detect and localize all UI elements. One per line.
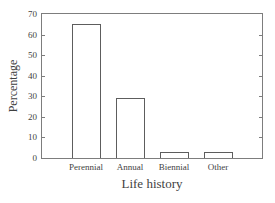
y-tick-mark xyxy=(259,96,262,97)
y-tick-mark xyxy=(42,76,45,77)
y-tick-mark xyxy=(42,55,45,56)
y-tick-mark xyxy=(42,96,45,97)
bar-chart-figure: Percentage 010203040506070 PerennialAnnu… xyxy=(0,0,275,203)
x-tick-label: Other xyxy=(208,162,229,172)
y-tick-label: 70 xyxy=(0,9,37,19)
x-tick-labels: PerennialAnnualBiennialOther xyxy=(42,162,262,174)
y-tick-label: 30 xyxy=(0,91,37,101)
x-tick-label: Perennial xyxy=(69,162,103,172)
y-tick-label: 50 xyxy=(0,50,37,60)
y-tick-label: 60 xyxy=(0,30,37,40)
y-tick-label: 40 xyxy=(0,71,37,81)
y-tick-mark xyxy=(42,137,45,138)
y-tick-mark xyxy=(42,35,45,36)
y-tick-label: 10 xyxy=(0,132,37,142)
bar-biennial xyxy=(160,152,189,158)
x-tick-label: Biennial xyxy=(159,162,190,172)
y-tick-mark xyxy=(259,137,262,138)
bar-other xyxy=(204,152,233,158)
y-tick-mark xyxy=(42,117,45,118)
y-tick-mark xyxy=(259,117,262,118)
y-tick-label: 20 xyxy=(0,112,37,122)
x-tick-label: Annual xyxy=(117,162,144,172)
plot-area xyxy=(41,13,263,159)
y-tick-label: 0 xyxy=(0,153,37,163)
y-tick-mark xyxy=(259,35,262,36)
y-tick-mark xyxy=(259,55,262,56)
x-axis-title: Life history xyxy=(42,176,262,192)
bar-annual xyxy=(116,98,145,158)
y-tick-labels: 010203040506070 xyxy=(0,0,37,203)
bar-perennial xyxy=(72,24,101,158)
y-tick-mark xyxy=(259,76,262,77)
